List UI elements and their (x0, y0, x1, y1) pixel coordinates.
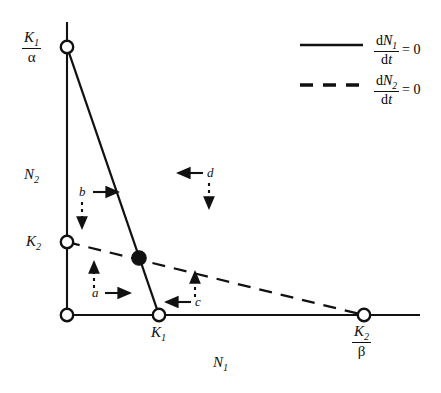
tick-label-k2-over-beta: K2 β (352, 323, 371, 359)
tick-label-k1-over-alpha: K1 α (22, 29, 41, 65)
point-k1-over-alpha (61, 41, 73, 53)
fraction-k1-alpha: K1 α (22, 29, 41, 65)
region-label-b: b (79, 185, 86, 198)
region-label-a: a (92, 286, 99, 299)
fraction-dn1-dt: dN1 dt (374, 33, 399, 67)
tick-label-k2: K2 (26, 234, 41, 252)
point-origin (61, 309, 73, 321)
isocline-dn1dt-solid (67, 47, 159, 315)
fraction-k2-beta: K2 β (352, 323, 371, 359)
tick-label-k1: K1 (151, 325, 166, 343)
isocline-dn2dt-dashed (67, 242, 364, 315)
stable-equilibrium-point (132, 251, 146, 265)
legend-entry-dn1dt: dN1 dt = 0 (374, 33, 421, 67)
legend-entry-dn2dt: dN2 dt = 0 (374, 73, 421, 107)
y-axis-label: N2 (24, 167, 39, 185)
point-k2 (61, 236, 73, 248)
phase-plane-figure: N2 N1 K1 α K2 K1 K2 β a b c d dN1 dt = 0… (0, 0, 441, 393)
region-label-c: c (195, 295, 201, 308)
point-k1 (153, 309, 165, 321)
x-axis-label: N1 (213, 355, 228, 373)
fraction-dn2-dt: dN2 dt (374, 73, 399, 107)
point-k2-over-beta (358, 309, 370, 321)
legend-dn2dt-rhs: = 0 (402, 82, 420, 98)
legend-dn1dt-rhs: = 0 (402, 42, 420, 58)
region-label-d: d (207, 166, 214, 179)
